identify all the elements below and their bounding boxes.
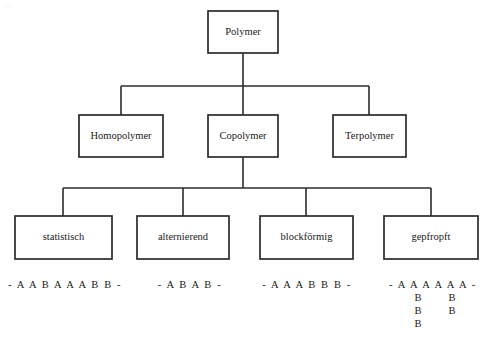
graft-branch-0-1: B (414, 305, 421, 316)
corner-artifact-mark: (a) (4, 1, 12, 9)
seq-statistisch: - A A B A A A B B - (8, 279, 122, 290)
node-label-homopolymer: Homopolymer (90, 130, 152, 141)
node-gepfropft[interactable]: gepfropft (384, 216, 478, 259)
node-label-statistisch: statistisch (43, 231, 85, 242)
graft-branch-1-1: B (448, 305, 455, 316)
node-label-copolymer: Copolymer (219, 130, 267, 141)
node-label-terpolymer: Terpolymer (345, 130, 394, 141)
node-label-gepfropft: gepfropft (411, 231, 450, 242)
node-copolymer[interactable]: Copolymer (208, 115, 278, 157)
seq-blockfoermig: - A A A B B B - (262, 279, 352, 290)
polymer-classification-diagram: (a) PolymerHomopolymerCopolymerTerpolyme… (0, 0, 490, 347)
graft-branch-1-0: B (448, 292, 455, 303)
node-alternierend[interactable]: alternierend (137, 216, 229, 259)
seq-alternierend: - A B A B - (158, 279, 223, 290)
diagram-canvas: PolymerHomopolymerCopolymerTerpolymersta… (0, 0, 490, 347)
node-terpolymer[interactable]: Terpolymer (333, 115, 406, 157)
graft-branches-layer: BBBBB (414, 292, 455, 329)
node-label-polymer: Polymer (225, 26, 261, 37)
graft-branch-0-0: B (414, 292, 421, 303)
sequences-layer: - A A B A A A B B -- A B A B -- A A A B … (8, 279, 477, 290)
nodes-layer: PolymerHomopolymerCopolymerTerpolymersta… (15, 11, 478, 259)
node-polymer[interactable]: Polymer (208, 11, 278, 53)
node-statistisch[interactable]: statistisch (15, 216, 112, 259)
seq-gepfropft: - A A A A A A - (389, 279, 477, 290)
node-label-blockfoermig: blockförmig (281, 231, 334, 242)
node-label-alternierend: alternierend (158, 231, 209, 242)
graft-branch-0-2: B (414, 318, 421, 329)
node-homopolymer[interactable]: Homopolymer (79, 115, 163, 157)
node-blockfoermig[interactable]: blockförmig (260, 216, 353, 259)
